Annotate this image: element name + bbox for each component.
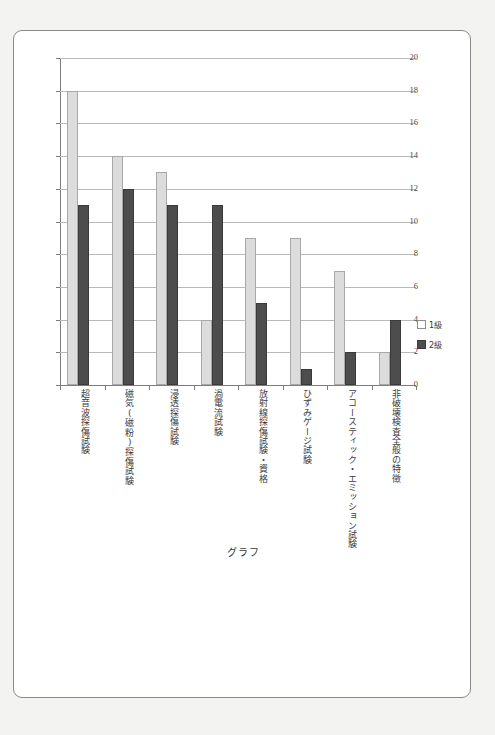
bar-group	[60, 58, 105, 385]
bar-series1	[334, 271, 345, 385]
y-tick-label: 12	[396, 184, 418, 193]
y-tick-label: 10	[396, 217, 418, 226]
x-category-label: 浸透探傷試験	[164, 389, 178, 445]
bar-chart: 02468101214161820 超音波探傷試験磁気(磁粉)探傷試験浸透探傷試…	[14, 31, 472, 699]
chart-caption: グラフ	[14, 544, 472, 559]
bar-series1	[156, 172, 167, 385]
bar-series1	[290, 238, 301, 385]
legend-item-series2: 2級	[417, 339, 469, 350]
y-tick-label: 0	[396, 380, 418, 389]
bar-group	[283, 58, 328, 385]
dark-swatch-icon	[417, 340, 426, 349]
bar-series1	[379, 352, 390, 385]
y-tick-label: 18	[396, 86, 418, 95]
bar-group	[238, 58, 283, 385]
y-tick-label: 16	[396, 118, 418, 127]
bar-group	[105, 58, 150, 385]
bar-series2	[212, 205, 223, 385]
chart-legend: 1級 2級	[417, 319, 469, 359]
x-category-label: アコースティック・エミッション試験	[342, 389, 356, 549]
x-category-label: ひずみゲージ試験	[298, 389, 312, 464]
y-tick-label: 2	[396, 347, 418, 356]
bar-series1	[201, 320, 212, 385]
legend-label-series1: 1級	[429, 319, 442, 330]
bar-series1	[245, 238, 256, 385]
y-tick-label: 14	[396, 151, 418, 160]
bar-series2	[78, 205, 89, 385]
bar-series2	[123, 189, 134, 385]
bar-series1	[112, 156, 123, 385]
bar-series1	[67, 91, 78, 385]
bar-series2	[167, 205, 178, 385]
bar-series2	[256, 303, 267, 385]
bar-group	[327, 58, 372, 385]
plot-area	[60, 58, 416, 386]
light-swatch-icon	[417, 320, 426, 329]
bar-series2	[301, 369, 312, 385]
x-category-label: 超音波探傷試験	[75, 389, 89, 455]
y-tick-label: 8	[396, 249, 418, 258]
y-tick-label: 4	[396, 315, 418, 324]
x-category-label: 渦電流試験	[209, 389, 223, 436]
bar-group	[149, 58, 194, 385]
legend-item-series1: 1級	[417, 319, 469, 330]
x-category-label: 放射線探傷試験・資格	[253, 389, 267, 483]
bar-series2	[345, 352, 356, 385]
x-category-label: 非破壊検査全般の特徴	[387, 389, 401, 483]
page-frame: 02468101214161820 超音波探傷試験磁気(磁粉)探傷試験浸透探傷試…	[13, 30, 471, 698]
y-tick-label: 20	[396, 53, 418, 62]
legend-label-series2: 2級	[429, 339, 442, 350]
x-category-label: 磁気(磁粉)探傷試験	[120, 389, 134, 485]
y-tick-label: 6	[396, 282, 418, 291]
x-axis-category-labels: 超音波探傷試験磁気(磁粉)探傷試験浸透探傷試験渦電流試験放射線探傷試験・資格ひず…	[60, 389, 416, 539]
bar-group	[194, 58, 239, 385]
